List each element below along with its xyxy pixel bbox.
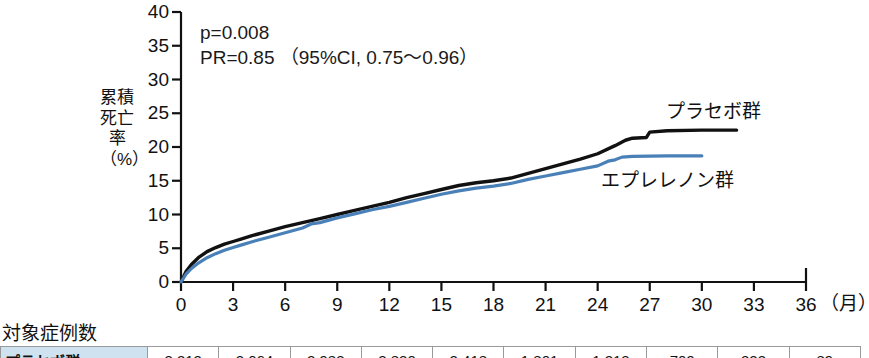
table-caption: 対象症例数 <box>2 318 97 345</box>
y-tick-marks <box>172 12 181 282</box>
y-tick-label: 25 <box>129 102 169 124</box>
table-cell: 709 <box>647 347 718 358</box>
x-tick-label: 0 <box>176 294 187 316</box>
table-row-label: プラセボ群 <box>1 347 148 358</box>
table-cell: 323 <box>718 347 789 358</box>
series-lines <box>181 130 737 282</box>
table-cell: 2,830 <box>361 347 432 358</box>
y-tick-label: 40 <box>129 1 169 23</box>
subject-count-table-area: 対象症例数 プラセボ群3,3133,0642,9832,8302,4181,80… <box>0 318 861 358</box>
y-tick-label: 30 <box>129 69 169 91</box>
y-tick-label: 20 <box>129 136 169 158</box>
table-caption-text: 対象症例数 <box>2 323 97 344</box>
table-cell: 89 <box>789 347 860 358</box>
cumulative-mortality-chart: 累積 死亡 率 （%） p=0.008 PR=0.85 （95%CI, 0.75… <box>0 0 861 318</box>
axes-group <box>181 12 806 282</box>
x-tick-label: 12 <box>379 294 400 316</box>
table-row: プラセボ群3,3133,0642,9832,8302,4181,8011,213… <box>1 347 861 358</box>
x-tick-label: 6 <box>280 294 291 316</box>
y-tick-label: 0 <box>129 271 169 293</box>
y-tick-label: 35 <box>129 35 169 57</box>
table-cell: 2,983 <box>290 347 361 358</box>
y-tick-label: 10 <box>129 204 169 226</box>
x-tick-label: 15 <box>431 294 452 316</box>
x-tick-label: 21 <box>535 294 556 316</box>
x-tick-label: 27 <box>639 294 660 316</box>
table-cell: 3,064 <box>219 347 290 358</box>
series-line-eplerenone <box>181 156 702 282</box>
table-cell: 3,313 <box>148 347 219 358</box>
x-tick-label: 9 <box>332 294 343 316</box>
subject-count-table: プラセボ群3,3133,0642,9832,8302,4181,8011,213… <box>0 346 861 358</box>
y-tick-label: 15 <box>129 170 169 192</box>
x-tick-marks <box>181 282 806 291</box>
table-cell: 1,213 <box>575 347 646 358</box>
x-tick-label: 24 <box>587 294 608 316</box>
y-tick-label: 5 <box>129 237 169 259</box>
x-tick-label: 36 <box>795 294 816 316</box>
series-line-placebo <box>181 130 737 282</box>
x-tick-label: 33 <box>743 294 764 316</box>
x-tick-label: 3 <box>228 294 239 316</box>
x-tick-label: 30 <box>691 294 712 316</box>
table-cell: 2,418 <box>433 347 504 358</box>
x-tick-label: 18 <box>483 294 504 316</box>
table-cell: 1,801 <box>504 347 575 358</box>
